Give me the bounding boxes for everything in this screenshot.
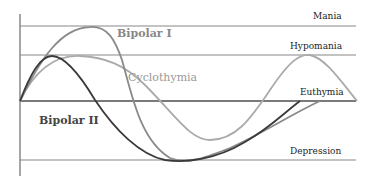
mania-label: Mania (313, 12, 342, 21)
bipolar1-label: Bipolar I (117, 28, 172, 39)
bipolar1-curve (20, 27, 320, 161)
bipolar2-label: Bipolar II (39, 115, 99, 126)
depression-label: Depression (290, 147, 341, 156)
hypomania-label: Hypomania (290, 42, 342, 51)
euthymia-label: Euthymia (300, 88, 344, 97)
cyclothymia-label: Cyclothymia (128, 72, 197, 83)
